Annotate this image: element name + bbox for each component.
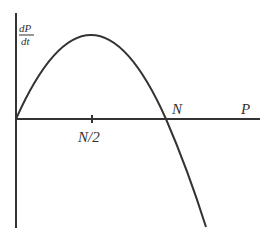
half-n-label: N/2 [77, 129, 100, 145]
n-label: N [171, 101, 183, 117]
growth-rate-curve [16, 35, 206, 227]
x-axis-label: P [240, 101, 250, 117]
logistic-diagram: dP dt N/2 N P [0, 0, 278, 243]
y-axis-label-denominator: dt [21, 35, 31, 47]
y-axis-label-numerator: dP [19, 22, 32, 34]
